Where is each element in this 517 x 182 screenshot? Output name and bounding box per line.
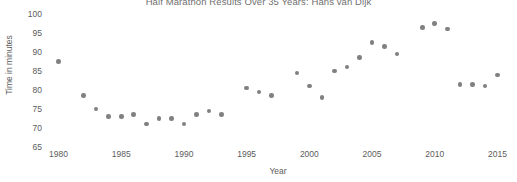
data-point	[106, 114, 111, 119]
data-point	[332, 69, 337, 74]
x-tick-label: 2010	[415, 150, 455, 159]
data-point	[470, 82, 475, 87]
y-tick-label: 85	[12, 67, 42, 76]
x-tick-label: 1985	[101, 150, 141, 159]
data-point	[269, 93, 274, 98]
data-point	[157, 116, 162, 121]
data-point	[94, 107, 99, 112]
x-tick-label: 1990	[164, 150, 204, 159]
data-point	[144, 122, 149, 127]
data-point	[420, 25, 425, 30]
data-point	[445, 27, 450, 32]
data-point	[357, 55, 362, 60]
data-point	[432, 21, 437, 26]
data-point	[370, 40, 375, 45]
data-point	[345, 65, 350, 70]
data-point	[395, 52, 400, 57]
chart-title: Half Marathon Results Over 35 Years: Han…	[0, 0, 517, 7]
data-point	[295, 71, 300, 76]
y-tick-label: 75	[12, 105, 42, 114]
data-point	[244, 86, 249, 91]
data-point	[81, 93, 86, 98]
data-point	[382, 44, 387, 49]
data-point	[169, 116, 174, 121]
data-point	[119, 114, 124, 119]
data-point	[483, 84, 488, 89]
data-point	[320, 95, 325, 100]
data-point	[458, 82, 463, 87]
x-tick-label: 2005	[352, 150, 392, 159]
chart-container: Half Marathon Results Over 35 Years: Han…	[0, 0, 517, 182]
data-point	[207, 109, 212, 114]
data-point	[194, 112, 199, 117]
data-point	[182, 122, 187, 127]
y-tick-label: 100	[12, 10, 42, 19]
data-point	[257, 90, 262, 95]
x-axis-label: Year	[46, 166, 510, 176]
x-tick-label: 1995	[227, 150, 267, 159]
x-tick-label: 2000	[289, 150, 329, 159]
data-point	[131, 112, 136, 117]
data-point	[56, 59, 61, 64]
y-tick-label: 65	[12, 143, 42, 152]
x-axis-tick-labels: 19801985199019952000200520102015	[46, 150, 510, 162]
y-tick-label: 70	[12, 124, 42, 133]
y-tick-label: 95	[12, 29, 42, 38]
x-tick-label: 2015	[477, 150, 517, 159]
y-tick-label: 80	[12, 86, 42, 95]
data-point	[495, 73, 500, 78]
x-tick-label: 1980	[39, 150, 79, 159]
data-point	[219, 112, 224, 117]
y-axis-tick-labels: 65707580859095100	[8, 14, 42, 147]
y-tick-label: 90	[12, 48, 42, 57]
data-point	[307, 84, 312, 89]
plot-area	[46, 14, 510, 147]
